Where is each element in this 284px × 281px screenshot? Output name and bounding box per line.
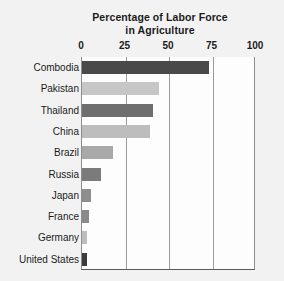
bar-row (82, 100, 254, 121)
x-tick-label-75: 75 (206, 40, 217, 51)
chart-title: Percentage of Labor Force in Agriculture (60, 11, 260, 37)
x-tick-label-50: 50 (162, 40, 173, 51)
chart-title-line-1: Percentage of Labor Force (60, 11, 260, 24)
category-label-france: France (48, 206, 79, 227)
bar-row (82, 185, 254, 206)
x-tick-label-100: 100 (247, 40, 264, 51)
bar-row (82, 57, 254, 78)
bar-row (82, 206, 254, 227)
chart-title-line-2: in Agriculture (60, 24, 260, 37)
chart-figure: Percentage of Labor Force in Agriculture… (0, 0, 284, 281)
category-label-thailand: Thailand (41, 100, 79, 121)
bar-row (82, 121, 254, 142)
category-label-japan: Japan (52, 185, 79, 206)
plot-area (81, 57, 255, 270)
bar-france (82, 210, 89, 223)
bar-thailand (82, 104, 153, 117)
bar-japan (82, 189, 91, 202)
bar-brazil (82, 146, 113, 159)
bar-row (82, 164, 254, 185)
bar-china (82, 125, 150, 138)
category-label-germany: Germany (38, 227, 79, 248)
bar-row (82, 249, 254, 270)
category-axis-labels: CombodiaPakistanThailandChinaBrazilRussi… (0, 57, 79, 270)
bar-germany (82, 231, 87, 244)
bar-combodia (82, 61, 209, 74)
bars-group (82, 57, 254, 269)
category-label-combodia: Combodia (33, 57, 79, 78)
bar-row (82, 227, 254, 248)
bar-pakistan (82, 82, 159, 95)
bar-russia (82, 168, 101, 181)
bar-united-states (82, 253, 87, 266)
x-tick-label-25: 25 (119, 40, 130, 51)
x-axis-tick-labels: 0255075100 (81, 40, 255, 55)
category-label-brazil: Brazil (54, 142, 79, 163)
category-label-pakistan: Pakistan (41, 78, 79, 99)
bar-row (82, 78, 254, 99)
category-label-russia: Russia (48, 164, 79, 185)
category-label-china: China (53, 121, 79, 142)
bar-row (82, 142, 254, 163)
x-tick-label-0: 0 (78, 40, 84, 51)
category-label-united-states: United States (19, 249, 79, 270)
